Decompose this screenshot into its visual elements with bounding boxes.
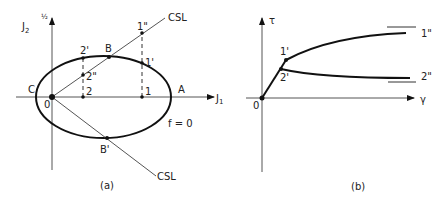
curve-2-label: 2" <box>421 71 432 82</box>
point-C-label: C <box>28 84 35 95</box>
point-1 <box>140 95 144 99</box>
point-2 <box>81 95 85 99</box>
csl-lower-line <box>52 97 156 176</box>
point-B-prime-label: B' <box>100 144 110 155</box>
csl-upper-label: CSL <box>168 12 187 23</box>
figure: J2 ½ J1 0 C A B B' 2 2" 2' 1 1' 1" CSL C… <box>0 0 441 204</box>
point-2-label: 2 <box>86 86 92 97</box>
point-2-prime-label-b: 2' <box>280 72 289 83</box>
curve-1-hardening <box>286 33 406 60</box>
curve-2-softening <box>281 69 410 78</box>
point-B-prime <box>105 136 109 140</box>
point-1-dprime-label: 1" <box>137 21 148 32</box>
caption-a: (a) <box>100 180 114 191</box>
point-1-prime-b <box>284 58 288 62</box>
point-1-label: 1 <box>145 86 151 97</box>
point-1-prime <box>140 61 144 65</box>
surface-label: f = 0 <box>168 118 193 129</box>
curve-1-label: 1" <box>421 28 432 39</box>
origin-label-b: 0 <box>253 100 259 111</box>
caption-b: (b) <box>351 181 365 192</box>
point-2-prime-label: 2' <box>80 45 89 56</box>
point-2-dprime <box>81 73 85 77</box>
point-A-label: A <box>178 84 185 95</box>
tau-axis-label: τ <box>269 15 275 26</box>
point-2-prime <box>81 56 85 60</box>
panel-b: τ γ 0 1' 2' 1" 2" (b) <box>246 15 432 192</box>
csl-lower-label: CSL <box>157 171 176 182</box>
point-origin-b <box>260 96 265 101</box>
origin-label-a: 0 <box>44 99 50 110</box>
point-2-prime-b <box>279 67 283 71</box>
point-1-prime-label: 1' <box>145 57 154 68</box>
point-B-label: B <box>105 43 112 54</box>
gamma-axis-label: γ <box>420 94 426 105</box>
j1-axis-label: J1 <box>215 93 223 106</box>
panel-a: J2 ½ J1 0 C A B B' 2 2" 2' 1 1' 1" CSL C… <box>16 12 223 191</box>
j2-axis-superscript: ½ <box>41 13 48 21</box>
j2-axis-label: J2 <box>21 21 29 35</box>
point-B <box>107 55 111 59</box>
point-1-prime-label-b: 1' <box>280 46 289 57</box>
point-2-dprime-label: 2" <box>86 71 97 82</box>
